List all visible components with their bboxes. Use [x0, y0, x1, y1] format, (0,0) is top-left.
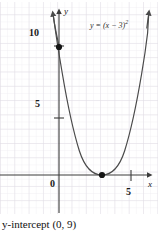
origin-tick-label-0: 0 [50, 179, 55, 189]
y-axis-name-label: y [64, 7, 68, 16]
x-axis-tick-label-5: 5 [126, 187, 131, 197]
equation-exponent: 2 [125, 19, 128, 25]
equation-body: y = (x − 3) [90, 21, 125, 30]
y-axis-tick-label-5: 5 [35, 99, 40, 109]
y-intercept-point [56, 44, 62, 50]
graph-figure: 10 5 0 5 y x y = (x − 3)2 y-intercept (0… [0, 0, 158, 235]
vertex-point [99, 172, 105, 178]
coordinate-plane [0, 0, 158, 235]
y-axis-tick-label-10: 10 [29, 28, 39, 38]
figure-caption: y-intercept (0, 9) [2, 219, 76, 230]
x-axis-name-label: x [148, 180, 152, 189]
grid-background [0, 2, 158, 214]
curve-equation-label: y = (x − 3)2 [90, 22, 128, 30]
